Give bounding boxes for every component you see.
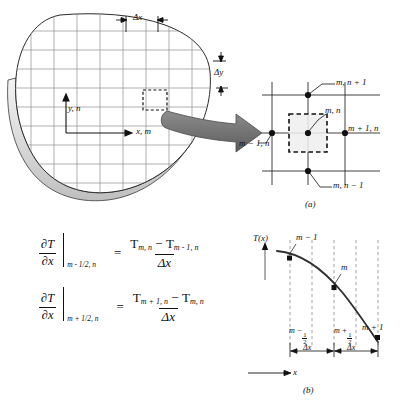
eq2-rhs-numerator: Tm + 1, n − Tm, n bbox=[130, 291, 207, 308]
eq1-term1-sub: m, n bbox=[138, 243, 152, 252]
eq2-equals: = bbox=[116, 299, 123, 315]
marker-m-minus-1 bbox=[287, 256, 292, 261]
figure-root: y, n x, m Δx Δy m, n + 1 m, n m, n − 1 m… bbox=[0, 0, 405, 407]
eq2-term1-sub: m + 1, n bbox=[141, 297, 168, 306]
curve-y-axis-label: T(x) bbox=[253, 234, 268, 243]
curve-x-axis-label: x bbox=[293, 368, 297, 377]
panel-a-caption: (a) bbox=[305, 199, 316, 209]
eq2-lhs-denominator: ∂x bbox=[39, 307, 57, 322]
body-delta-x-label: Δx bbox=[133, 13, 142, 22]
curve-delta-x-label-right: Δx bbox=[347, 344, 355, 352]
marker-m-plus-1 bbox=[375, 335, 380, 340]
eq1-eval-subscript: m - 1/2, n bbox=[67, 260, 96, 269]
node-west-label: m − 1, n bbox=[239, 139, 270, 148]
node-center-label: m, n bbox=[325, 106, 341, 115]
eq2-eval-subscript: m + 1/2, n bbox=[67, 314, 98, 323]
eq2-rhs: Tm + 1, n − Tm, n Δx bbox=[130, 291, 207, 323]
eq2-eval-bar bbox=[63, 287, 64, 321]
eq1-lhs: ∂T ∂x bbox=[38, 238, 57, 267]
curve-y-axis bbox=[262, 242, 268, 280]
midplane-plus-prefix: m + bbox=[334, 326, 347, 335]
curve-delta-x-label-left: Δx bbox=[303, 344, 311, 352]
curve-x-axis bbox=[248, 370, 291, 375]
node-center-dot bbox=[305, 130, 311, 136]
curve-point-m-label: m bbox=[341, 263, 348, 272]
node-east-label: m + 1, n bbox=[348, 124, 379, 133]
eq2-rhs-denominator: Δx bbox=[159, 308, 178, 324]
eq1-lhs-denominator: ∂x bbox=[39, 253, 57, 268]
node-north-label: m, n + 1 bbox=[336, 78, 367, 87]
node-west-dot bbox=[269, 130, 275, 136]
node-south-label: m, n − 1 bbox=[333, 181, 364, 190]
eq1-rhs-denominator: Δx bbox=[155, 254, 174, 270]
body-face bbox=[16, 14, 211, 193]
eq1-rhs-numerator: Tm, n − Tm - 1, n bbox=[127, 237, 201, 254]
figure-svg bbox=[0, 0, 405, 407]
marker-m bbox=[332, 285, 337, 290]
eq1-lhs-numerator: ∂T bbox=[38, 238, 57, 252]
eq2-lhs-numerator: ∂T bbox=[38, 292, 57, 306]
eq1-rhs: Tm, n − Tm - 1, n Δx bbox=[127, 237, 201, 269]
curve-panel bbox=[248, 240, 380, 376]
curve-point-m-plus-1-label: m + 1 bbox=[362, 323, 384, 332]
equation-block: ∂T ∂x m - 1/2, n = Tm, n − Tm - 1, n Δx … bbox=[38, 228, 233, 343]
node-grid-panel bbox=[258, 82, 380, 187]
eq-backward-difference: ∂T ∂x m - 1/2, n = Tm, n − Tm - 1, n Δx bbox=[38, 230, 201, 276]
body-delta-y-label: Δy bbox=[214, 68, 223, 77]
panel-b-caption: (b) bbox=[303, 385, 314, 395]
eq2-lhs: ∂T ∂x bbox=[38, 292, 57, 321]
eq1-equals: = bbox=[114, 245, 121, 261]
body-x-axis-label: x, m bbox=[136, 127, 151, 136]
eq1-eval-bar bbox=[63, 233, 64, 267]
eq-forward-difference: ∂T ∂x m + 1/2, n = Tm + 1, n − Tm, n Δx bbox=[38, 284, 207, 330]
body-y-axis-label: y, n bbox=[68, 104, 81, 113]
eq2-term2-sub: m, n bbox=[190, 297, 204, 306]
eq1-term2-sub: m - 1, n bbox=[174, 243, 199, 252]
midplane-minus-prefix: m − bbox=[289, 326, 302, 335]
curve-point-m-minus-1-label: m − 1 bbox=[296, 233, 318, 242]
